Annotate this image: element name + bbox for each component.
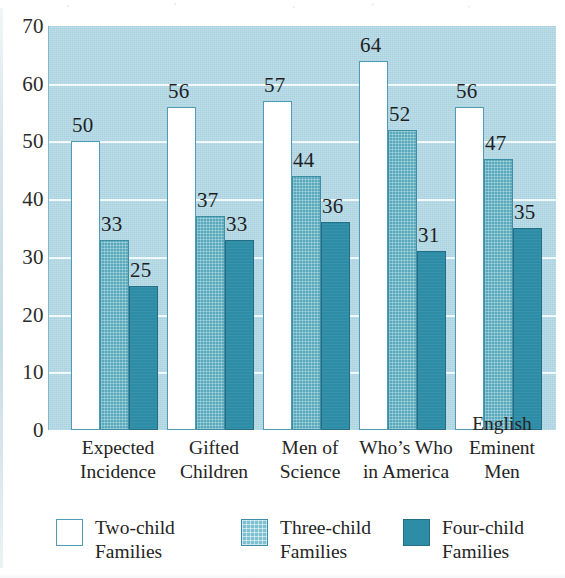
- legend-label-line2: Families: [442, 540, 524, 564]
- value-label-four-child-0: 25: [130, 258, 152, 283]
- bar-three-child-0[interactable]: [100, 240, 129, 430]
- x-axis-labels: ExpectedIncidenceGiftedChildrenMen ofSci…: [48, 436, 556, 508]
- scan-artifact-top: [0, 0, 565, 10]
- legend-swatch-three-child: [241, 519, 268, 546]
- bar-three-child-3[interactable]: [388, 130, 417, 430]
- bar-four-child-2[interactable]: [321, 222, 350, 430]
- chart-legend: Two-childFamiliesThree-childFamiliesFour…: [48, 516, 548, 568]
- bar-four-child-0[interactable]: [129, 286, 158, 430]
- value-label-two-child-1: 56: [168, 79, 190, 104]
- bar-group-2: 574436: [263, 26, 359, 430]
- legend-label-line1: Three-child: [280, 516, 371, 540]
- bar-three-child-1[interactable]: [196, 216, 225, 430]
- y-axis-tick-50: 50: [0, 129, 44, 154]
- legend-swatch-two-child: [56, 519, 83, 546]
- scan-edge-bottom: [0, 574, 565, 578]
- value-label-two-child-4: 56: [456, 79, 478, 104]
- bar-two-child-0[interactable]: [71, 141, 100, 430]
- value-label-three-child-4: 47: [485, 131, 507, 156]
- legend-item-two-child[interactable]: Two-childFamilies: [56, 516, 175, 564]
- y-axis-tick-40: 40: [0, 187, 44, 212]
- plot-area: 503325563733574436645231564735: [48, 26, 556, 430]
- legend-label-line2: Families: [280, 540, 371, 564]
- value-label-four-child-3: 31: [418, 223, 440, 248]
- legend-item-three-child[interactable]: Three-childFamilies: [241, 516, 371, 564]
- y-axis: 010203040506070: [0, 26, 44, 430]
- x-axis-label-4: EnglishEminentMen: [440, 412, 564, 484]
- legend-label-line1: Two-child: [95, 516, 175, 540]
- legend-label-two-child: Two-childFamilies: [95, 516, 175, 564]
- bar-group-0: 503325: [71, 26, 167, 430]
- legend-label-line2: Families: [95, 540, 175, 564]
- y-axis-tick-0: 0: [0, 418, 44, 443]
- value-label-four-child-1: 33: [226, 212, 248, 237]
- bar-three-child-4[interactable]: [484, 159, 513, 430]
- value-label-three-child-2: 44: [293, 148, 315, 173]
- legend-swatch-four-child: [403, 519, 430, 546]
- y-axis-tick-30: 30: [0, 244, 44, 269]
- legend-label-four-child: Four-childFamilies: [442, 516, 524, 564]
- bar-two-child-1[interactable]: [167, 107, 196, 430]
- value-label-three-child-0: 33: [101, 212, 123, 237]
- value-label-two-child-0: 50: [72, 113, 94, 138]
- legend-item-four-child[interactable]: Four-childFamilies: [403, 516, 524, 564]
- bar-two-child-4[interactable]: [455, 107, 484, 430]
- bar-two-child-2[interactable]: [263, 101, 292, 430]
- value-label-four-child-2: 36: [322, 194, 344, 219]
- legend-label-three-child: Three-childFamilies: [280, 516, 371, 564]
- bar-two-child-3[interactable]: [359, 61, 388, 430]
- x-axis-label-line: Eminent: [440, 436, 564, 460]
- value-label-four-child-4: 35: [514, 200, 536, 225]
- x-axis-label-line: Men: [440, 460, 564, 484]
- y-axis-tick-10: 10: [0, 360, 44, 385]
- value-label-two-child-3: 64: [360, 33, 382, 58]
- y-axis-tick-70: 70: [0, 14, 44, 39]
- bar-group-1: 563733: [167, 26, 263, 430]
- y-axis-tick-20: 20: [0, 302, 44, 327]
- value-label-two-child-2: 57: [264, 73, 286, 98]
- bar-four-child-4[interactable]: [513, 228, 542, 430]
- bar-three-child-2[interactable]: [292, 176, 321, 430]
- bar-four-child-3[interactable]: [417, 251, 446, 430]
- value-label-three-child-3: 52: [389, 102, 411, 127]
- y-axis-tick-60: 60: [0, 71, 44, 96]
- bar-group-4: 564735: [455, 26, 551, 430]
- legend-label-line1: Four-child: [442, 516, 524, 540]
- value-label-three-child-1: 37: [197, 188, 219, 213]
- bar-group-3: 645231: [359, 26, 455, 430]
- bar-four-child-1[interactable]: [225, 240, 254, 430]
- x-axis-label-line: English: [440, 412, 564, 436]
